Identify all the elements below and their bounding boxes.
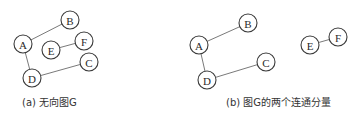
node-label: B — [244, 18, 251, 30]
node-d: D — [198, 71, 216, 89]
caption-figure-a: (a) 无向图G — [22, 97, 77, 109]
node-d: D — [23, 69, 41, 87]
node-label: A — [195, 40, 203, 52]
node-b: B — [61, 11, 79, 29]
node-label: C — [262, 57, 269, 69]
nodes-b: ABCDEF — [190, 14, 347, 89]
node-label: B — [66, 15, 73, 27]
edge-d-c — [41, 64, 81, 75]
node-label: E — [307, 40, 314, 52]
node-e: E — [42, 41, 60, 59]
nodes-a: ABEFCD — [14, 11, 98, 87]
edge-e-f — [60, 43, 76, 47]
edge-a-d — [201, 54, 205, 71]
node-label: F — [81, 36, 87, 48]
edge-e-f — [319, 39, 330, 42]
node-f: F — [329, 28, 347, 46]
node-c: C — [257, 53, 275, 71]
edge-d-c — [216, 65, 258, 78]
diagram-stage: ABEFCD ABCDEF (a) 无向图G (b) 图G的两个连通分量 — [0, 0, 359, 119]
node-f: F — [75, 32, 93, 50]
node-e: E — [301, 36, 319, 54]
node-label: D — [28, 73, 36, 85]
node-label: C — [85, 57, 92, 69]
figure-connected-components: ABCDEF — [190, 14, 347, 89]
figure-undirected-graph-g: ABEFCD — [14, 11, 98, 87]
node-label: E — [48, 45, 55, 57]
node-a: A — [190, 36, 208, 54]
node-b: B — [239, 14, 257, 32]
node-c: C — [80, 53, 98, 71]
node-label: A — [19, 39, 27, 51]
node-label: F — [335, 32, 341, 44]
edge-a-b — [207, 27, 240, 42]
node-label: D — [203, 75, 211, 87]
edge-a-d — [25, 53, 29, 70]
node-a: A — [14, 35, 32, 53]
caption-figure-b: (b) 图G的两个连通分量 — [226, 97, 331, 109]
edge-a-b — [31, 24, 62, 40]
